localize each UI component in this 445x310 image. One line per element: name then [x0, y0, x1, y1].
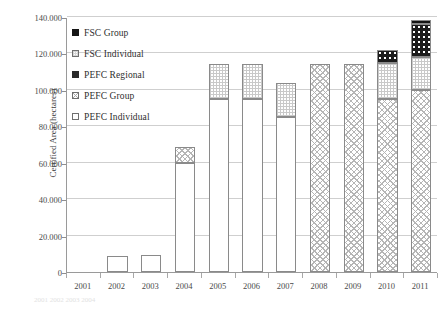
- bar-segment-pefc-group: [310, 64, 330, 272]
- bar-segment-pefc-individual: [141, 255, 161, 272]
- legend-item-pefc-group: PEFC Group: [72, 85, 150, 106]
- x-axis-tick-mark: [370, 273, 371, 278]
- y-axis-tick-label: 80.000: [0, 122, 62, 132]
- bar-segment-fsc-individual: [411, 57, 431, 90]
- y-axis-tick-label: 20.000: [0, 232, 62, 242]
- x-axis-tick-mark: [437, 273, 438, 278]
- legend-item-pefc-individual: PEFC Individual: [72, 106, 150, 127]
- x-axis-tick-label: 2011: [412, 281, 429, 291]
- x-axis-tick-label: 2001: [74, 281, 91, 291]
- bar-2010: [377, 50, 397, 272]
- bar-segment-pefc-individual: [242, 99, 262, 272]
- y-axis-tick-label: 0: [0, 268, 62, 278]
- x-axis-tick-label: 2006: [243, 281, 260, 291]
- y-axis-tick-label: 60.000: [0, 159, 62, 169]
- legend-swatch-icon: [72, 50, 79, 57]
- x-axis-tick-label: 2003: [142, 281, 159, 291]
- y-axis-tick-label: 140.000: [0, 13, 62, 23]
- legend-swatch-icon: [72, 113, 79, 120]
- x-axis-tick-label: 2005: [209, 281, 226, 291]
- x-axis-tick-label: 2002: [108, 281, 125, 291]
- y-axis-tick-label: 100.000: [0, 86, 62, 96]
- bar-2008: [310, 64, 330, 272]
- x-axis-tick-label: 2008: [310, 281, 327, 291]
- bar-2007: [276, 46, 296, 272]
- legend-item-pefc-regional: PEFC Regional: [72, 64, 150, 85]
- legend-item-fsc-group: FSC Group: [72, 22, 150, 43]
- x-axis-tick-mark: [201, 273, 202, 278]
- legend-item-fsc-individual: FSC Individual: [72, 43, 150, 64]
- bar-segment-pefc-individual: [209, 99, 229, 272]
- x-axis-tick-mark: [302, 273, 303, 278]
- bar-2005: [209, 39, 229, 272]
- gridline: [67, 16, 437, 17]
- bar-segment-fsc-individual: [242, 64, 262, 99]
- bar-2003: [141, 255, 161, 272]
- chart-container: Certified Area (hectares) 020.00040.0006…: [0, 0, 445, 310]
- bar-segment-pefc-individual: [175, 163, 195, 272]
- bar-segment-fsc-individual: [209, 64, 229, 99]
- bar-segment-pefc-group: [411, 90, 431, 272]
- x-axis-tick-mark: [336, 273, 337, 278]
- x-axis-tick-mark: [66, 273, 67, 278]
- legend-item-label: PEFC Regional: [84, 70, 145, 80]
- x-axis-tick-mark: [235, 273, 236, 278]
- bar-segment-fsc-individual: [276, 83, 296, 118]
- bar-segment-pefc-individual: [107, 256, 127, 272]
- bar-segment-fsc-group: [377, 50, 397, 63]
- x-axis-tick-mark: [403, 273, 404, 278]
- y-axis-tick-label: 120.000: [0, 49, 62, 59]
- legend-swatch-icon: [72, 71, 79, 78]
- bar-2004: [175, 147, 195, 272]
- bar-segment-pefc-individual: [276, 117, 296, 272]
- x-axis-tick-mark: [167, 273, 168, 278]
- bar-2006: [242, 39, 262, 272]
- bar-2011: [411, 20, 431, 272]
- bar-segment-fsc-individual: [377, 63, 397, 99]
- legend-swatch-icon: [72, 29, 79, 36]
- y-axis-tick-label: 40.000: [0, 195, 62, 205]
- x-axis-tick-label: 2004: [176, 281, 193, 291]
- legend-item-label: PEFC Group: [84, 91, 134, 101]
- bar-segment-pefc-group: [344, 64, 364, 272]
- x-axis-tick-label: 2009: [344, 281, 361, 291]
- bar-segment-pefc-group: [377, 99, 397, 272]
- bar-segment-cap: [411, 20, 431, 24]
- bar-2002: [107, 256, 127, 272]
- footer-ghost-text: 2001 2002 2003 2004: [34, 296, 95, 304]
- legend-item-label: PEFC Individual: [84, 112, 150, 122]
- bar-segment-fsc-group: [411, 24, 431, 57]
- legend: FSC GroupFSC IndividualPEFC RegionalPEFC…: [72, 22, 150, 127]
- x-axis-tick-mark: [133, 273, 134, 278]
- bar-segment-pefc-group: [175, 147, 195, 162]
- x-axis-tick-label: 2010: [378, 281, 395, 291]
- x-axis-tick-mark: [268, 273, 269, 278]
- bar-2009: [344, 64, 364, 272]
- legend-item-label: FSC Group: [84, 28, 128, 38]
- x-axis-tick-mark: [100, 273, 101, 278]
- legend-item-label: FSC Individual: [84, 49, 144, 59]
- x-axis-tick-label: 2007: [277, 281, 294, 291]
- legend-swatch-icon: [72, 92, 79, 99]
